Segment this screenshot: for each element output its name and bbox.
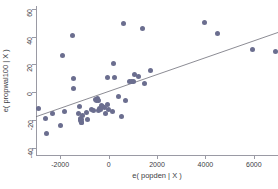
data-point <box>96 98 101 103</box>
data-point <box>105 102 110 107</box>
x-tick <box>157 155 158 159</box>
y-axis-title: e( propwal100 | X ) <box>0 6 12 155</box>
data-point <box>62 109 67 114</box>
data-point <box>119 114 124 119</box>
data-point <box>58 123 63 128</box>
y-tick-label: 0 <box>27 92 34 96</box>
data-point <box>105 75 110 80</box>
x-tick-label: -2000 <box>51 161 69 168</box>
data-point <box>202 20 207 25</box>
y-tick-label: -40 <box>27 148 34 158</box>
y-tick-label: 60 <box>27 9 34 17</box>
data-point <box>77 104 82 109</box>
data-point <box>71 86 76 91</box>
y-tick-label: 20 <box>27 64 34 72</box>
y-tick-label: -20 <box>27 120 34 130</box>
data-point <box>91 108 96 113</box>
x-tick <box>205 155 206 159</box>
data-point <box>148 68 153 73</box>
x-tick <box>109 155 110 159</box>
x-tick-label: 6000 <box>246 161 262 168</box>
data-point <box>43 116 48 121</box>
x-tick-label: 0 <box>107 161 111 168</box>
x-tick <box>60 155 61 159</box>
x-tick-label: 4000 <box>198 161 214 168</box>
data-point <box>136 74 141 79</box>
y-tick-label: 40 <box>27 37 34 45</box>
x-tick <box>254 155 255 159</box>
plot-area: 6040200-20-40 -20000200040006000 <box>36 6 278 155</box>
y-axis-title-text: e( propwal100 | X ) <box>2 49 10 112</box>
x-tick-label: 2000 <box>149 161 165 168</box>
data-point <box>121 21 126 26</box>
x-axis-title: e( popden | X ) <box>36 172 278 180</box>
data-point <box>36 106 41 111</box>
scatter-plot-figure: 6040200-20-40 -20000200040006000 e( prop… <box>0 0 278 189</box>
data-point <box>116 94 121 99</box>
data-point <box>142 81 147 86</box>
data-point <box>71 76 76 81</box>
